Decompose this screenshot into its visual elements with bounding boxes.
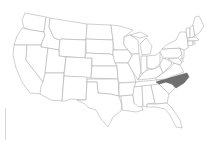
state-south-dakota[interactable]: South Dakota xyxy=(86,39,113,55)
state-delaware[interactable]: Delaware xyxy=(181,58,183,62)
state-florida[interactable]: Florida xyxy=(147,103,182,128)
state-vermont[interactable]: Vermont xyxy=(186,28,190,38)
state-connecticut[interactable]: Connecticut xyxy=(188,41,193,46)
state-rhode-island[interactable]: Rhode Island xyxy=(193,41,195,44)
state-massachusetts[interactable]: Massachusetts xyxy=(188,37,199,41)
state-maine[interactable]: Maine xyxy=(193,16,204,36)
state-montana[interactable]: Montana xyxy=(49,18,87,40)
state-ohio[interactable]: Ohio xyxy=(147,52,160,69)
state-pennsylvania[interactable]: Pennsylvania xyxy=(160,48,182,58)
state-michigan[interactable]: Michigan xyxy=(140,38,152,55)
state-new-york[interactable]: New York xyxy=(162,32,188,50)
state-kansas[interactable]: Kansas xyxy=(91,66,118,79)
us-states-map: WashingtonOregonCaliforniaIdahoNevadaMon… xyxy=(0,0,218,145)
states-layer: WashingtonOregonCaliforniaIdahoNevadaMon… xyxy=(13,13,204,128)
left-edge-rule xyxy=(5,108,6,140)
state-wyoming[interactable]: Wyoming xyxy=(59,39,86,58)
state-new-mexico[interactable]: New Mexico xyxy=(62,76,87,101)
state-colorado[interactable]: Colorado xyxy=(64,57,92,78)
state-north-dakota[interactable]: North Dakota xyxy=(86,24,113,40)
